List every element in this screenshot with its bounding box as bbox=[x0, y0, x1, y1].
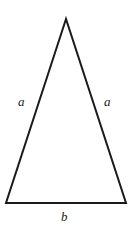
label-right-side: a bbox=[104, 95, 111, 108]
geometry-diagram: a a b bbox=[0, 0, 131, 238]
triangle-shape bbox=[0, 0, 131, 238]
label-base-side: b bbox=[61, 210, 68, 223]
label-left-side: a bbox=[18, 95, 25, 108]
